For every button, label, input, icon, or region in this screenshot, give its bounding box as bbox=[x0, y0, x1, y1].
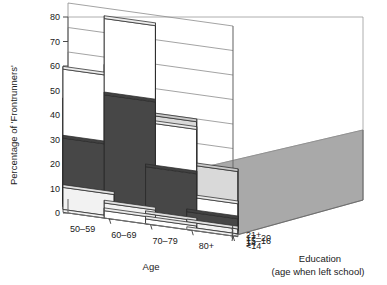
x-tick-mark bbox=[192, 230, 194, 235]
three-d-bar-chart: 01020304050607080 50–5960–6970–7980+ <14… bbox=[0, 0, 387, 285]
x-tick-label: 50–59 bbox=[70, 224, 95, 234]
y-axis-title: Percentage of 'Frontrunners' bbox=[8, 65, 19, 185]
x-axis-title: Age bbox=[143, 261, 160, 272]
y-tick-label: 70 bbox=[50, 37, 60, 47]
x-tick-mark bbox=[109, 219, 111, 224]
z-tick-label: 21+ bbox=[246, 230, 261, 240]
y-tick-label: 50 bbox=[50, 86, 60, 96]
y-tick-label: 40 bbox=[50, 110, 60, 120]
z-axis-title: Education bbox=[299, 253, 341, 264]
y-tick-label: 60 bbox=[50, 61, 60, 71]
y-tick-label: 0 bbox=[55, 208, 60, 218]
x-tick-label: 80+ bbox=[199, 241, 214, 251]
y-tick-label: 10 bbox=[50, 184, 60, 194]
chart-container: 01020304050607080 50–5960–6970–7980+ <14… bbox=[0, 0, 387, 285]
y-tick-label: 20 bbox=[50, 159, 60, 169]
x-tick-label: 70–79 bbox=[153, 236, 178, 246]
x-tick-label: 60–69 bbox=[111, 230, 136, 240]
y-tick-label: 80 bbox=[50, 12, 60, 22]
z-axis-subtitle: (age when left school) bbox=[272, 266, 365, 277]
y-tick-label: 30 bbox=[50, 135, 60, 145]
x-tick-mark bbox=[151, 225, 153, 230]
